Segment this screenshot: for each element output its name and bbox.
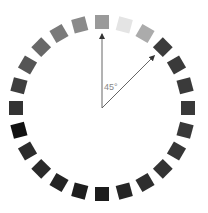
color-square xyxy=(31,37,51,57)
color-square xyxy=(167,141,186,160)
color-wheel-diagram: 45° xyxy=(0,0,208,213)
color-square xyxy=(49,24,68,43)
color-square xyxy=(95,187,109,201)
color-square xyxy=(176,77,193,94)
color-square xyxy=(181,101,195,115)
color-square xyxy=(95,15,109,29)
color-square xyxy=(18,141,37,160)
color-square xyxy=(9,101,23,115)
angle-arrows xyxy=(102,34,154,108)
color-square xyxy=(135,173,154,192)
color-square xyxy=(116,182,133,199)
color-square xyxy=(176,122,193,139)
color-square xyxy=(167,55,186,74)
color-square xyxy=(135,24,154,43)
color-square xyxy=(71,16,88,33)
color-square xyxy=(10,77,27,94)
color-square xyxy=(71,182,88,199)
color-square xyxy=(18,55,37,74)
color-square xyxy=(31,159,51,179)
color-square xyxy=(10,122,27,139)
color-square xyxy=(49,173,68,192)
color-square xyxy=(116,16,133,33)
angle-label: 45° xyxy=(104,82,118,92)
color-square xyxy=(153,37,173,57)
color-square xyxy=(153,159,173,179)
